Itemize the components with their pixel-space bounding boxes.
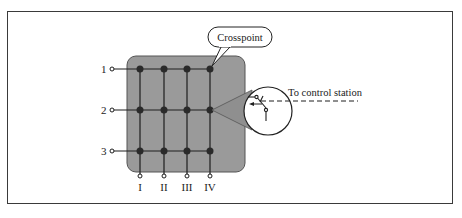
- column-label-III: III: [182, 181, 193, 193]
- column-label-IV: IV: [204, 181, 216, 193]
- crosspoint-callout-label: Crosspoint: [217, 32, 263, 43]
- control-station-label: To control station: [288, 87, 363, 98]
- row-label-2: 2: [101, 104, 107, 116]
- row-label-3: 3: [101, 145, 107, 157]
- input-terminals: [110, 67, 114, 153]
- output-terminals: [138, 174, 212, 178]
- crossbar-diagram: 1 2 3 I II III IV Crosspoint To control …: [0, 0, 462, 218]
- row-label-1: 1: [101, 63, 107, 75]
- magnifier-circle: [244, 87, 292, 135]
- column-label-I: I: [138, 181, 142, 193]
- column-label-II: II: [160, 181, 168, 193]
